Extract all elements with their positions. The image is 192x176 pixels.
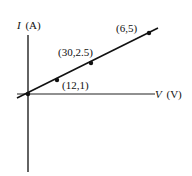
iv-graph: I (A) V (V) (12,1) (30,2.5) (6,5) — [0, 0, 192, 176]
point-6-5 — [147, 31, 151, 35]
point-label-12-1: (12,1) — [62, 79, 89, 92]
y-axis-label: I (A) — [16, 19, 41, 32]
y-axis-symbol: I — [16, 19, 22, 31]
y-axis-unit: (A) — [25, 19, 41, 32]
x-axis-unit: (V) — [166, 88, 182, 101]
point-30-2.5 — [89, 61, 93, 65]
point-label-30-2.5: (30,2.5) — [58, 46, 93, 59]
point-label-6-5: (6,5) — [116, 22, 137, 35]
x-axis-symbol: V — [155, 88, 163, 100]
x-axis-label: V (V) — [155, 88, 182, 101]
origin-point — [26, 92, 30, 96]
point-12-1 — [55, 78, 59, 82]
